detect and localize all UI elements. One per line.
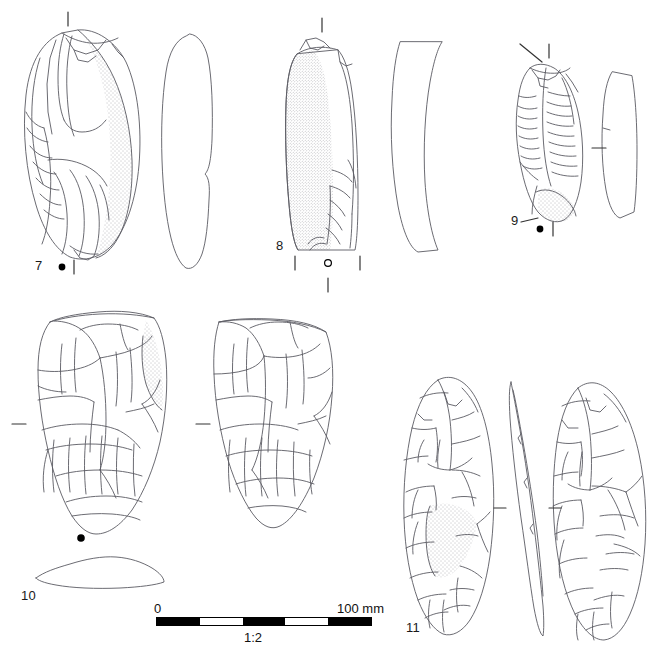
lithic-illustration-plate: 7 8 9 10 11 0 100 mm 1:2	[0, 0, 667, 652]
artifact-10-face-a	[38, 311, 167, 534]
artifact-label-9: 9	[511, 213, 519, 228]
filled-dot-10	[77, 534, 85, 542]
scale-bar	[156, 617, 372, 626]
scale-segment-1	[157, 618, 200, 625]
artifact-10-face-b	[214, 319, 333, 528]
artifact-9-dorsal	[516, 64, 582, 222]
artifact-11-face-b	[553, 383, 646, 640]
artifact-7-profile	[162, 34, 213, 268]
scale-segment-3	[243, 618, 286, 625]
leader-line-9	[521, 218, 538, 222]
artifact-label-7: 7	[35, 258, 43, 273]
open-circle-8	[325, 260, 332, 267]
scale-max-label: 100 mm	[337, 601, 384, 616]
artifact-label-11: 11	[406, 620, 420, 635]
scale-ratio-label: 1:2	[244, 630, 262, 645]
artifact-drawings	[0, 0, 667, 652]
artifact-11-edge-profile	[509, 382, 543, 636]
scale-segment-2	[200, 618, 243, 625]
filled-dot-9	[537, 226, 544, 233]
filled-dot-7	[59, 264, 66, 271]
artifact-7-dorsal	[24, 30, 139, 260]
tick-diagonal-9	[520, 44, 542, 62]
artifact-8-dorsal	[286, 38, 358, 250]
artifact-10-cross-section	[36, 557, 164, 589]
artifact-9-profile	[602, 72, 637, 218]
scale-segment-4	[285, 618, 328, 625]
artifact-label-8: 8	[276, 238, 284, 253]
scale-min-label: 0	[154, 601, 161, 616]
scale-segment-5	[328, 618, 371, 625]
orientation-symbols	[59, 226, 544, 542]
artifact-label-10: 10	[21, 588, 36, 603]
artifact-8-profile	[391, 42, 442, 252]
artifact-11-face-a	[404, 377, 494, 635]
